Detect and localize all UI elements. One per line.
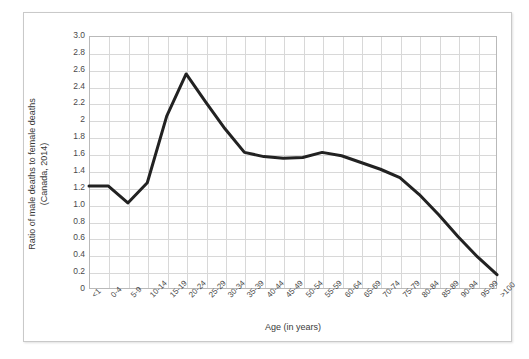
gridline-horizontal xyxy=(90,189,496,190)
y-axis-tick-label: 2.6 xyxy=(63,65,85,74)
y-axis-title-line2: (Canada, 2014) xyxy=(38,74,50,274)
gridline-vertical xyxy=(323,37,324,288)
x-axis-title: Age (in years) xyxy=(89,322,497,332)
line-chart: 00.20.40.60.81.01.21.41.61.822.22.42.62.… xyxy=(0,0,529,359)
page-background: 00.20.40.60.81.01.21.41.61.822.22.42.62.… xyxy=(0,0,529,359)
gridline-vertical xyxy=(401,37,402,288)
gridline-vertical xyxy=(109,37,110,288)
y-axis-tick-label: 0.6 xyxy=(63,233,85,242)
y-axis-tick-label: 0.2 xyxy=(63,267,85,276)
gridline-vertical xyxy=(284,37,285,288)
gridline-vertical xyxy=(459,37,460,288)
gridline-vertical xyxy=(245,37,246,288)
gridline-vertical xyxy=(362,37,363,288)
y-axis-tick-label: 1.0 xyxy=(63,200,85,209)
gridline-vertical xyxy=(440,37,441,288)
plot-area xyxy=(89,36,497,289)
gridline-vertical xyxy=(381,37,382,288)
gridline-horizontal xyxy=(90,239,496,240)
y-axis-tick-label: 3.0 xyxy=(63,31,85,40)
gridline-horizontal xyxy=(90,54,496,55)
y-axis-tick-label: 1.4 xyxy=(63,166,85,175)
gridline-horizontal xyxy=(90,88,496,89)
gridline-horizontal xyxy=(90,71,496,72)
gridline-horizontal xyxy=(90,223,496,224)
gridline-horizontal xyxy=(90,155,496,156)
gridline-vertical xyxy=(343,37,344,288)
x-axis-tick-label: >100 xyxy=(498,280,517,299)
gridline-vertical xyxy=(129,37,130,288)
y-axis-tick-label: 2 xyxy=(63,115,85,124)
gridline-vertical xyxy=(265,37,266,288)
gridline-vertical xyxy=(420,37,421,288)
y-axis-tick-label: 0.4 xyxy=(63,250,85,259)
gridline-horizontal xyxy=(90,121,496,122)
gridline-horizontal xyxy=(90,273,496,274)
gridline-vertical xyxy=(168,37,169,288)
gridline-vertical xyxy=(187,37,188,288)
gridline-vertical xyxy=(479,37,480,288)
gridline-vertical xyxy=(207,37,208,288)
y-axis-tick-label: 1.8 xyxy=(63,132,85,141)
gridline-horizontal xyxy=(90,206,496,207)
gridline-horizontal xyxy=(90,172,496,173)
y-axis-tick-label: 0.8 xyxy=(63,217,85,226)
gridline-vertical xyxy=(304,37,305,288)
y-axis-tick-label: 2.2 xyxy=(63,98,85,107)
y-axis-tick-label: 1.2 xyxy=(63,183,85,192)
gridline-horizontal xyxy=(90,256,496,257)
gridline-vertical xyxy=(226,37,227,288)
y-axis-tick-label: 2.8 xyxy=(63,48,85,57)
gridline-vertical xyxy=(148,37,149,288)
gridline-horizontal xyxy=(90,138,496,139)
y-axis-tick-label: 2.4 xyxy=(63,82,85,91)
y-axis-title: Ratio of male deaths to female deaths (C… xyxy=(26,74,50,274)
y-axis-tick-label: 1.6 xyxy=(63,149,85,158)
y-axis-title-line1: Ratio of male deaths to female deaths xyxy=(26,74,38,274)
y-axis-tick-label: 0 xyxy=(63,284,85,293)
gridline-horizontal xyxy=(90,104,496,105)
